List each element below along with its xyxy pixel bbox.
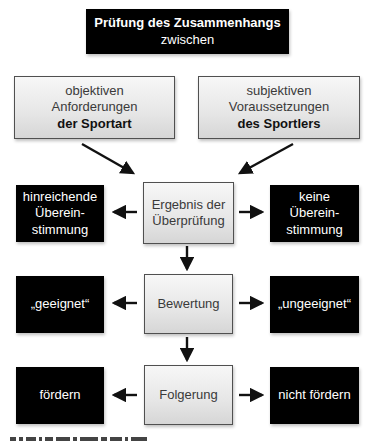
arrows-layer [0, 0, 374, 441]
arrow-requirements-to-result [82, 144, 133, 173]
arrow-prerequisites-to-result [240, 144, 293, 173]
clipped-caption [10, 437, 170, 441]
